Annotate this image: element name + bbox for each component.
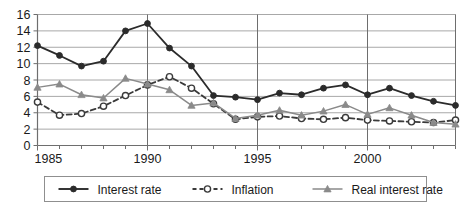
legend-marker-inflation bbox=[204, 186, 210, 192]
data-point-interest-rate-1994 bbox=[233, 94, 239, 100]
data-point-inflation-2001 bbox=[386, 118, 392, 124]
data-point-interest-rate-1999 bbox=[343, 82, 349, 88]
data-point-interest-rate-2002 bbox=[409, 93, 415, 99]
x-tick-label-2000: 2000 bbox=[354, 152, 382, 166]
chart-legend: Interest rateInflationReal interest rate bbox=[45, 177, 444, 202]
x-tick-label-1985: 1985 bbox=[35, 152, 63, 166]
interest-rate-inflation-line-chart: 0246810121416 1985199019952000 Interest … bbox=[0, 0, 473, 209]
legend-label-real-interest-rate: Real interest rate bbox=[352, 183, 444, 197]
data-point-interest-rate-1995 bbox=[255, 97, 261, 103]
data-point-interest-rate-1992 bbox=[189, 63, 195, 69]
data-point-interest-rate-1991 bbox=[167, 45, 173, 51]
y-tick-label-12: 12 bbox=[17, 41, 31, 55]
data-point-inflation-1996 bbox=[276, 113, 282, 119]
data-point-inflation-1989 bbox=[122, 92, 128, 98]
legend-label-inflation: Inflation bbox=[232, 183, 274, 197]
y-tick-label-6: 6 bbox=[24, 90, 31, 104]
y-tick-label-2: 2 bbox=[24, 123, 31, 137]
y-tick-label-16: 16 bbox=[17, 8, 31, 22]
data-point-interest-rate-2000 bbox=[365, 92, 371, 98]
data-point-interest-rate-1997 bbox=[299, 92, 305, 98]
data-point-interest-rate-1993 bbox=[211, 93, 217, 99]
data-point-inflation-1992 bbox=[188, 85, 194, 91]
legend-label-interest-rate: Interest rate bbox=[98, 183, 162, 197]
y-tick-label-10: 10 bbox=[17, 57, 31, 71]
data-point-interest-rate-1996 bbox=[277, 90, 283, 96]
data-point-inflation-1987 bbox=[78, 110, 84, 116]
y-tick-label-4: 4 bbox=[24, 106, 31, 120]
data-point-inflation-1998 bbox=[320, 116, 326, 122]
data-point-interest-rate-1998 bbox=[321, 85, 327, 91]
data-point-inflation-2000 bbox=[364, 117, 370, 123]
legend-marker-interest-rate bbox=[71, 186, 77, 192]
y-tick-label-8: 8 bbox=[24, 74, 31, 88]
data-point-inflation-1986 bbox=[56, 112, 62, 118]
data-point-inflation-1991 bbox=[166, 74, 172, 80]
data-point-interest-rate-1985 bbox=[35, 43, 41, 49]
data-point-interest-rate-19 bbox=[453, 102, 459, 108]
y-tick-label-0: 0 bbox=[24, 139, 31, 153]
x-tick-label-1990: 1990 bbox=[134, 152, 162, 166]
data-point-inflation-1988 bbox=[100, 103, 106, 109]
data-point-interest-rate-1987 bbox=[79, 63, 85, 69]
data-point-interest-rate-2001 bbox=[387, 85, 393, 91]
data-point-interest-rate-1990 bbox=[145, 21, 151, 27]
data-point-interest-rate-1989 bbox=[123, 28, 129, 34]
data-point-interest-rate-2003 bbox=[431, 98, 437, 104]
data-point-interest-rate-1988 bbox=[101, 58, 107, 64]
chart-container: 0246810121416 1985199019952000 Interest … bbox=[0, 0, 473, 209]
data-point-inflation-1985 bbox=[34, 99, 40, 105]
data-point-inflation-2002 bbox=[408, 119, 414, 125]
x-tick-label-1995: 1995 bbox=[244, 152, 272, 166]
y-tick-label-14: 14 bbox=[17, 24, 31, 38]
data-point-interest-rate-1986 bbox=[57, 53, 63, 59]
data-point-inflation-1999 bbox=[342, 115, 348, 121]
